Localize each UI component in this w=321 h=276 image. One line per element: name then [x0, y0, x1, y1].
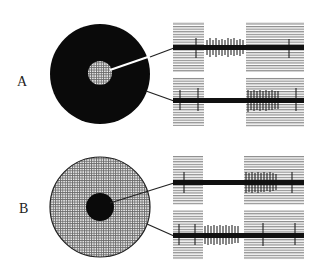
- panel-a: [50, 22, 304, 127]
- trace-baseline: [173, 98, 304, 103]
- panel-b: [50, 156, 304, 260]
- center-light-spot: [88, 61, 112, 85]
- trace-baseline: [173, 45, 304, 50]
- stimulus-a: [50, 24, 150, 124]
- center-dark-spot: [86, 193, 114, 221]
- lead-surround-a: [146, 91, 174, 101]
- lead-surround-b: [147, 224, 174, 236]
- recording-a-2: [173, 77, 304, 127]
- trace-baseline: [173, 180, 304, 185]
- figure-canvas: [0, 0, 321, 276]
- recording-a-1: [173, 22, 304, 72]
- recording-b-1: [173, 156, 304, 205]
- lead-center-a-outside: [150, 48, 174, 57]
- recording-b-2: [173, 210, 304, 260]
- stimulus-b: [50, 157, 150, 257]
